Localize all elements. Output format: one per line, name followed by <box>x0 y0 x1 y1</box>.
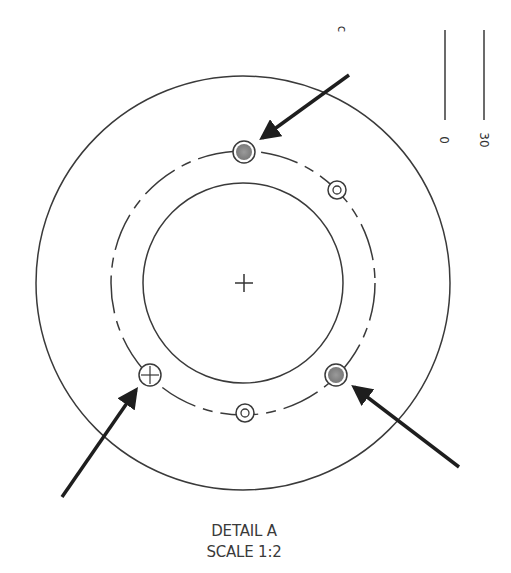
scale-label-end: 30 <box>477 132 491 147</box>
hole-upper-right <box>328 181 346 199</box>
detail-scale: SCALE 1:2 <box>0 543 488 561</box>
hole-right <box>325 364 347 386</box>
hole-top <box>233 141 255 163</box>
hole-left-crosshair <box>139 364 161 386</box>
scale-label-start: 0 <box>437 136 451 144</box>
arrow-left <box>62 390 136 497</box>
arrow-right <box>354 387 459 467</box>
detail-title: DETAIL A <box>0 522 488 540</box>
arrow-top <box>262 75 349 138</box>
center-mark-icon <box>235 274 253 292</box>
hole-bottom <box>236 404 254 422</box>
detail-drawing <box>0 0 511 573</box>
text-fragment: c <box>335 26 349 33</box>
